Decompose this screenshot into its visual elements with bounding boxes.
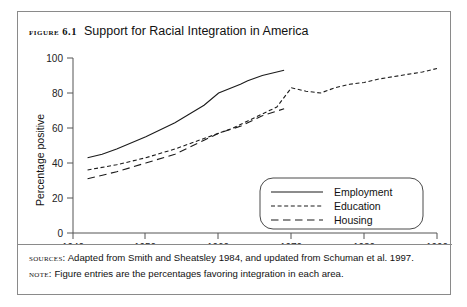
series-line-housing <box>88 109 285 179</box>
figure-notes: Sources: Adapted from Smith and Sheatsle… <box>18 244 452 285</box>
line-chart: Percentage positive 100 80 60 40 20 0 <box>18 12 452 244</box>
legend-label-housing: Housing <box>334 214 373 226</box>
note-text: Figure entries are the percentages favor… <box>55 268 344 279</box>
note-line: Note: Figure entries are the percentages… <box>29 268 441 280</box>
sources-key: Sources: <box>29 252 66 263</box>
series-line-education <box>88 69 437 171</box>
y-tick-label: 80 <box>52 88 64 99</box>
figure-container: Figure 6.1Support for Racial Integration… <box>17 11 451 295</box>
sources-line: Sources: Adapted from Smith and Sheatsle… <box>29 252 441 264</box>
chart-plot-area: Percentage positive 100 80 60 40 20 0 <box>18 12 452 244</box>
legend-label-employment: Employment <box>334 186 392 198</box>
note-key: Note: <box>29 268 52 279</box>
y-axis-ticks: 100 80 60 40 20 0 <box>46 53 73 239</box>
sources-text: Adapted from Smith and Sheatsley 1984, a… <box>68 252 414 263</box>
y-axis-label: Percentage positive <box>34 114 46 206</box>
y-tick-label: 20 <box>52 193 64 204</box>
chart-legend: Employment Education Housing <box>260 178 423 229</box>
y-tick-label: 40 <box>52 158 64 169</box>
y-tick-label: 0 <box>57 228 63 239</box>
x-axis-ticks: 1940 1950 1960 1970 1980 1990 <box>62 233 449 244</box>
legend-label-education: Education <box>334 200 381 212</box>
y-tick-label: 60 <box>52 123 64 134</box>
y-tick-label: 100 <box>46 53 63 64</box>
